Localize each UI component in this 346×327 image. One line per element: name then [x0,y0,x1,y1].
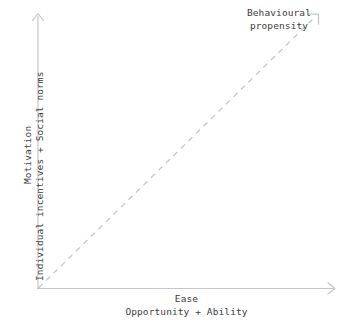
y-axis-title-secondary: Individual incentives + Social norms [33,71,46,281]
behavioural-propensity-annotation: Behavioural propensity [236,6,322,32]
x-axis-title-group: Ease Opportunity + Ability [38,292,335,318]
annotation-line-1: Behavioural [236,6,322,19]
plot-area [0,0,346,327]
x-axis-title-secondary: Opportunity + Ability [38,305,335,318]
x-axis-title-primary: Ease [38,292,335,305]
behavioural-propensity-trendline [39,17,316,288]
figure-canvas: Behavioural propensity Motivation Indivi… [0,0,346,327]
annotation-line-2: propensity [236,19,322,32]
